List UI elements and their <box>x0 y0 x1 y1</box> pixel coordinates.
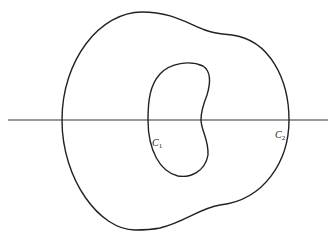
outer-curve-c2 <box>62 12 289 230</box>
label-c1: C1 <box>152 137 163 150</box>
diagram-canvas: C1 C2 <box>0 0 332 240</box>
label-c2: C2 <box>275 129 286 142</box>
